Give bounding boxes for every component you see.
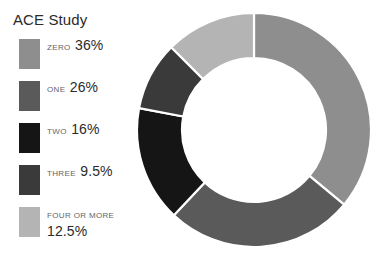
legend-swatch-three: [19, 165, 40, 195]
legend-value-three: 9.5%: [80, 163, 112, 179]
legend-value-two: 16%: [71, 121, 99, 137]
legend-swatch-four-or-more: [19, 207, 40, 237]
legend-text-zero: ZERO 36%: [47, 36, 103, 54]
legend-swatch-one: [19, 81, 40, 111]
ace-study-donut-chart-figure: ACE Study ZERO 36% ONE 26% TWO: [0, 0, 384, 263]
legend-item-two[interactable]: TWO 16%: [0, 120, 150, 162]
legend-item-three[interactable]: THREE 9.5%: [0, 162, 150, 204]
legend-text-four-or-more: FOUR OR MORE 12.5%: [47, 204, 150, 240]
legend-text-one: ONE 26%: [47, 78, 98, 96]
legend-item-four-or-more[interactable]: FOUR OR MORE 12.5%: [0, 204, 150, 246]
legend-swatch-two: [19, 123, 40, 153]
legend-label-two: TWO: [47, 127, 67, 136]
legend-item-one[interactable]: ONE 26%: [0, 78, 150, 120]
donut-slice-group: [137, 13, 371, 247]
donut-chart: [136, 12, 372, 248]
legend-text-three: THREE 9.5%: [47, 162, 113, 180]
legend-label-three: THREE: [47, 169, 76, 178]
chart-legend-panel: ACE Study ZERO 36% ONE 26% TWO: [0, 0, 150, 263]
legend-label-zero: ZERO: [47, 43, 71, 52]
donut-slice-zero[interactable]: [254, 13, 371, 205]
legend-swatch-zero: [19, 39, 40, 69]
legend-list: ZERO 36% ONE 26% TWO 16%: [0, 36, 150, 246]
legend-value-zero: 36%: [75, 37, 103, 53]
donut-svg: [136, 12, 372, 248]
legend-value-four-or-more: 12.5%: [47, 223, 87, 239]
legend-value-one: 26%: [70, 79, 98, 95]
legend-label-four-or-more: FOUR OR MORE: [47, 211, 114, 220]
legend-item-zero[interactable]: ZERO 36%: [0, 36, 150, 78]
chart-title: ACE Study: [13, 11, 87, 29]
legend-label-one: ONE: [47, 85, 65, 94]
legend-text-two: TWO 16%: [47, 120, 100, 138]
